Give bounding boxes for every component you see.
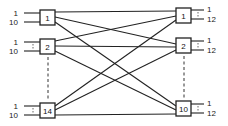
svg-text:1: 1 xyxy=(45,14,50,23)
switching-network-diagram: 1 1 10 2 1 10 14 1 10 1 1 12 2 1 12 10 1… xyxy=(0,0,228,126)
svg-text:1: 1 xyxy=(181,12,186,21)
svg-text:1: 1 xyxy=(207,36,212,45)
svg-text:1: 1 xyxy=(14,38,19,47)
interconnect-links xyxy=(24,10,204,115)
svg-text:2: 2 xyxy=(45,43,50,52)
svg-text:1: 1 xyxy=(207,5,212,14)
svg-text:14: 14 xyxy=(43,107,52,116)
svg-text:2: 2 xyxy=(181,42,186,51)
svg-text:10: 10 xyxy=(179,105,188,114)
left-stage-1: 1 1 10 xyxy=(9,9,55,27)
left-stage-14: 14 1 10 xyxy=(9,102,55,120)
left-stage-2: 2 1 10 xyxy=(9,38,55,56)
svg-text:1: 1 xyxy=(207,99,212,108)
svg-text:10: 10 xyxy=(9,18,18,27)
svg-text:1: 1 xyxy=(14,102,19,111)
svg-text:12: 12 xyxy=(207,46,216,55)
svg-text:1: 1 xyxy=(14,9,19,18)
right-stage-2: 2 1 12 xyxy=(176,36,216,55)
svg-text:12: 12 xyxy=(207,109,216,118)
right-stage-1: 1 1 12 xyxy=(176,5,216,24)
svg-text:10: 10 xyxy=(9,47,18,56)
svg-text:12: 12 xyxy=(207,15,216,24)
right-stage-10: 10 1 12 xyxy=(176,99,216,118)
svg-text:10: 10 xyxy=(9,111,18,120)
